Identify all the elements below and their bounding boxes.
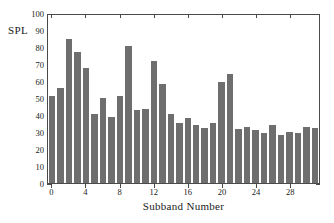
- bar: [234, 129, 242, 183]
- bar: [285, 132, 293, 183]
- bar: [65, 39, 73, 183]
- y-axis-tick-label: 80: [4, 43, 44, 53]
- bar: [268, 125, 276, 183]
- x-axis-tick-label: 12: [139, 187, 169, 197]
- bar: [209, 123, 217, 183]
- x-axis-tick-mark-top: [222, 14, 223, 18]
- bar: [99, 98, 107, 183]
- bar: [56, 88, 64, 183]
- y-axis-tick-label: 30: [4, 128, 44, 138]
- x-axis-tick-label: 0: [36, 187, 66, 197]
- y-axis-tick-label: 20: [4, 145, 44, 155]
- bar: [184, 118, 192, 183]
- x-axis-tick-label: 8: [105, 187, 135, 197]
- bar: [243, 127, 251, 183]
- plot-area-box: [47, 14, 320, 184]
- bar: [260, 133, 268, 183]
- bar: [311, 128, 319, 183]
- y-axis-tick-label: 70: [4, 60, 44, 70]
- bar: [192, 125, 200, 183]
- y-axis-tick-label: 100: [4, 9, 44, 19]
- bar: [251, 130, 259, 183]
- bar: [302, 127, 310, 183]
- x-axis-tick-mark-top: [154, 14, 155, 18]
- bar: [73, 52, 81, 183]
- bar: [167, 114, 175, 183]
- bar: [141, 109, 149, 183]
- bar: [82, 68, 90, 183]
- x-axis-tick-label: 24: [241, 187, 271, 197]
- bar: [124, 46, 132, 183]
- bar: [133, 110, 141, 183]
- x-axis-tick-label: 4: [70, 187, 100, 197]
- bar: [48, 96, 56, 183]
- plot-area: [48, 15, 319, 183]
- bar: [107, 117, 115, 183]
- x-axis-tick-label: 28: [275, 187, 305, 197]
- bar: [175, 123, 183, 183]
- x-axis-tick-mark-top: [256, 14, 257, 18]
- x-axis-tick-mark-top: [290, 14, 291, 18]
- spl-subband-bar-chart: SPL 0102030405060708090100 0481216202428…: [0, 0, 334, 223]
- bar: [277, 135, 285, 183]
- x-axis-tick-label: 16: [173, 187, 203, 197]
- bar: [226, 74, 234, 183]
- y-axis-tick-label: 90: [4, 26, 44, 36]
- x-axis-tick-mark-top: [188, 14, 189, 18]
- bar: [150, 61, 158, 183]
- bar: [116, 96, 124, 183]
- x-axis-tick-label: 20: [207, 187, 237, 197]
- bar: [294, 133, 302, 183]
- y-axis-tick-label: 60: [4, 77, 44, 87]
- y-axis-tick-label: 50: [4, 94, 44, 104]
- x-axis-tick-mark-top: [120, 14, 121, 18]
- bar-series: [48, 15, 319, 183]
- y-axis-tick-mark-right: [316, 184, 320, 185]
- bar: [158, 84, 166, 183]
- bar: [217, 82, 225, 183]
- bar: [90, 114, 98, 183]
- bar: [200, 128, 208, 183]
- x-axis-tick-mark-top: [85, 14, 86, 18]
- x-axis-title: Subband Number: [47, 200, 320, 212]
- y-axis-tick-label: 40: [4, 111, 44, 121]
- x-axis-tick-mark-top: [51, 14, 52, 18]
- y-axis-tick-label: 10: [4, 162, 44, 172]
